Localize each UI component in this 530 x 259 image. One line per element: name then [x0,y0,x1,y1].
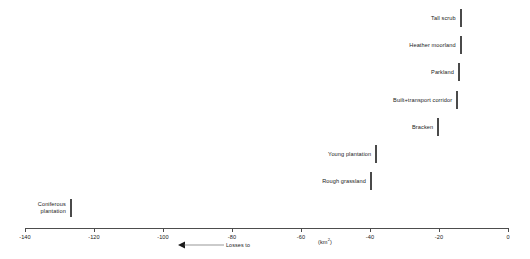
x-axis-tick [301,228,302,232]
x-axis-tick [232,228,233,232]
x-axis-tick [94,228,95,232]
bar [70,199,72,217]
bar-row: Tall scrub [460,9,508,27]
bar-row: Heather moorland [460,36,508,54]
x-axis-tick-label: -140 [19,234,31,240]
x-axis-tick [163,228,164,232]
bar-row: Parkland [458,63,508,81]
horizontal-bar-chart: Tall scrubHeather moorlandParklandBuilt+… [0,0,530,259]
bar-row: Bracken [437,118,508,136]
bar-category-label: Rough grassland [322,178,370,185]
bar-category-label: Parkland [431,69,458,76]
bar-category-label: Young plantation [328,151,375,158]
bar [456,91,458,109]
bar-row: Young plantation [375,145,508,163]
bar-category-label: Built+transport corridor [393,96,456,103]
x-axis-tick-label: -20 [435,234,443,240]
units-open: (km [318,239,328,245]
x-axis-tick-label: -40 [366,234,374,240]
bar [460,36,462,54]
x-axis-tick [508,228,509,232]
bar [437,118,439,136]
x-axis-tick-label: -100 [157,234,169,240]
x-axis-tick-label: 0 [506,234,509,240]
losses-to-label: Losses to [226,242,250,248]
bar-row: Rough grassland [370,172,508,190]
bar [460,9,462,27]
bar [375,145,377,163]
left-arrow-icon [178,241,224,249]
x-axis-tick-label: -120 [88,234,100,240]
x-axis-tick [439,228,440,232]
x-axis-tick [370,228,371,232]
bar-category-label: Tall scrub [431,15,460,22]
x-axis-tick [25,228,26,232]
units-close: ) [330,239,332,245]
bar-row: Built+transport corridor [456,91,508,109]
bar-category-label: Heather moorland [409,42,459,49]
bar-row: Coniferous plantation [70,199,508,217]
x-axis-tick-label: -60 [297,234,305,240]
losses-to-annotation: Losses to [178,239,250,251]
bar-category-label: Bracken [412,123,437,130]
x-axis-units-label: (km2) [318,239,332,245]
plot-area: Tall scrubHeather moorlandParklandBuilt+… [0,0,530,228]
bar [370,172,372,190]
x-axis-line [25,228,508,229]
bar-category-label: Coniferous plantation [20,201,70,215]
bar [458,63,460,81]
